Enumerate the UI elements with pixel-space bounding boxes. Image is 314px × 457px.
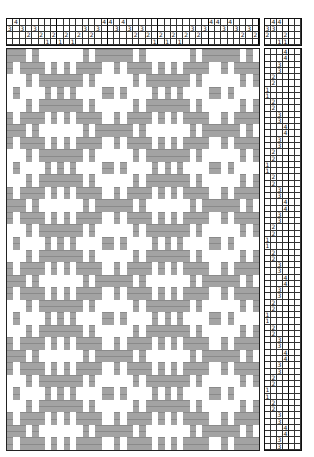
drawdown-cell [253,444,259,450]
tieup-grid: 44332211 [264,18,302,46]
threading-cell [253,39,259,46]
tieup-cell [295,39,301,46]
treadling-grid: 4433221122334433221122334433221122334433… [264,48,302,451]
drawdown [6,48,260,451]
treadling-cell [295,444,301,450]
threading-grid: 4444444333333333333322222222222222111111 [6,18,260,46]
